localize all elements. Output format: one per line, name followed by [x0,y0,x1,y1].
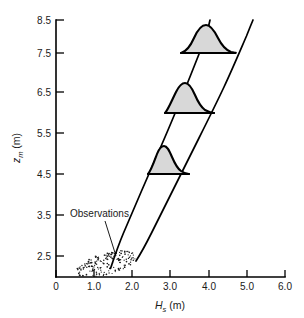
chart-canvas: 8.5 7.5 6.5 5.5 4.5 3.5 2.5 0 1.0 2.0 3.… [0,0,304,318]
observation-point [132,252,133,253]
observation-point [92,275,93,276]
observation-point [86,274,88,276]
x-tick-labels: 0 1.0 2.0 3.0 4.0 5.0 6.0 [53,281,292,292]
observation-point [131,258,132,259]
observation-point [94,269,96,271]
observation-point [78,273,80,275]
observation-point [80,266,81,267]
observation-point [96,271,98,273]
observation-point [99,267,101,269]
observation-point [118,260,119,261]
observation-point [84,263,86,265]
observation-point [96,261,97,262]
observation-point [97,267,98,268]
observation-point [94,265,95,266]
observation-point [101,261,102,262]
observations-label: Observations [70,208,129,219]
observation-point [99,273,100,274]
observation-point [126,258,127,259]
observation-point [106,266,108,268]
observation-point [96,273,98,275]
y-tick-marks [56,20,64,256]
observation-point [108,270,109,271]
observation-point [100,270,101,271]
y-tick-labels: 8.5 7.5 6.5 5.5 4.5 3.5 2.5 [37,15,51,262]
observation-point [86,263,87,264]
observation-point [80,268,81,269]
observation-point [102,262,103,263]
observation-point [92,268,93,269]
observation-point [130,255,131,256]
observation-point [122,256,123,257]
observation-point [118,268,120,270]
observation-point [109,253,110,254]
observation-point [98,268,99,269]
svg-text:Hs (m): Hs (m) [155,299,185,314]
observation-point [109,255,110,256]
observation-point [133,259,135,261]
observation-point [132,257,134,259]
observation-point [101,271,102,272]
observation-point [83,268,84,269]
y-tick-label-7.5: 7.5 [37,48,51,59]
observations-leader-line [105,221,116,256]
observation-point [106,274,108,276]
y-tick-label-6.5: 6.5 [37,87,51,98]
observation-point [82,275,84,277]
x-tick-label-3.0: 3.0 [163,281,177,292]
observation-point [93,266,94,267]
x-tick-label-5.0: 5.0 [240,281,254,292]
observation-point [126,261,128,263]
observation-point [120,259,122,261]
observation-point [134,258,135,259]
observation-point [114,270,116,272]
observation-point [96,256,97,257]
observation-point [89,270,90,271]
observation-point [127,251,128,252]
observation-point [95,275,96,276]
observations-scatter-cloud [76,250,135,277]
observation-point [77,269,79,271]
observation-point [83,267,85,269]
observation-point [104,272,105,273]
observation-point [90,259,91,260]
observation-point [124,260,125,261]
observation-point [97,259,99,261]
x-tick-label-6.0: 6.0 [278,281,292,292]
observation-point [107,256,108,257]
observation-point [117,258,119,260]
observation-point [130,259,132,261]
observation-point [119,262,120,263]
observation-point [107,252,109,254]
observation-point [123,268,124,269]
y-tick-label-3.5: 3.5 [37,210,51,221]
svg-text:zm (m): zm (m) [10,133,25,164]
observation-point [106,263,108,265]
observation-point [104,254,105,255]
x-axis-title-unit: (m) [166,299,185,311]
observation-point [108,264,110,266]
observation-point [86,267,88,269]
x-tick-label-2.0: 2.0 [125,281,139,292]
observation-point [113,267,114,268]
observation-point [120,253,121,254]
pdf-distribution-middle [165,83,214,113]
y-tick-label-4.5: 4.5 [37,169,51,180]
observation-point [99,274,100,275]
y-axis-title: zm (m) [10,133,25,164]
observation-point [124,266,126,268]
x-tick-label-4.0: 4.0 [202,281,216,292]
observation-point [88,259,90,261]
axis-group [56,20,285,277]
y-tick-label-8.5: 8.5 [37,15,51,26]
x-axis-title: Hs (m) [155,299,185,314]
observation-point [128,258,129,259]
observation-point [91,262,93,264]
observation-point [133,254,134,255]
observation-point [103,274,104,275]
observations-annotation: Observations [70,208,129,256]
observation-point [128,252,130,254]
figure-container: 8.5 7.5 6.5 5.5 4.5 3.5 2.5 0 1.0 2.0 3.… [0,0,304,318]
observation-point [120,250,122,252]
observation-point [128,263,130,265]
